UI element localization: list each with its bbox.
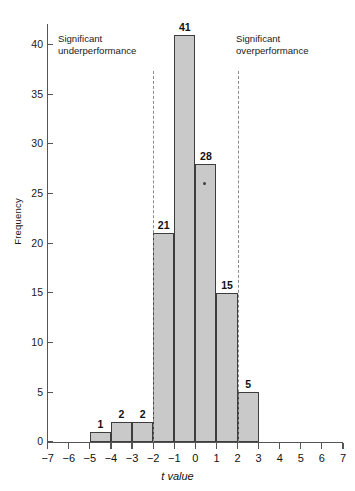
y-tick-label: 20 bbox=[3, 238, 43, 249]
y-tick-label: 0 bbox=[3, 436, 43, 447]
y-tick-label-wrap: 30 bbox=[0, 138, 43, 149]
x-tick bbox=[68, 443, 69, 449]
y-tick bbox=[47, 94, 53, 95]
histogram-bar bbox=[195, 164, 216, 442]
y-tick-label-wrap: 35 bbox=[0, 89, 43, 100]
y-axis-line bbox=[47, 24, 48, 443]
y-tick-label-wrap: 5 bbox=[0, 387, 43, 398]
y-tick-label: 5 bbox=[3, 387, 43, 398]
x-tick bbox=[279, 443, 280, 449]
x-tick bbox=[300, 443, 301, 449]
y-tick bbox=[47, 292, 53, 293]
x-tick bbox=[342, 443, 343, 449]
y-tick-label: 30 bbox=[3, 138, 43, 149]
significance-threshold-negative bbox=[153, 71, 154, 442]
histogram-bar bbox=[153, 233, 174, 442]
x-tick bbox=[89, 443, 90, 449]
y-tick-label: 40 bbox=[3, 39, 43, 50]
x-tick bbox=[153, 443, 154, 449]
y-tick-label: 15 bbox=[3, 287, 43, 298]
note-under-line1: Significant bbox=[58, 33, 102, 44]
y-axis-title: Frequency bbox=[12, 162, 23, 282]
y-tick-label-wrap: 0 bbox=[0, 436, 43, 447]
significance-threshold-positive bbox=[238, 71, 239, 442]
bar-value-label: 28 bbox=[186, 151, 226, 162]
x-tick bbox=[174, 443, 175, 449]
y-tick-label-wrap: 40 bbox=[0, 39, 43, 50]
histogram-bar bbox=[132, 422, 153, 442]
x-axis-title: t value bbox=[0, 470, 355, 482]
y-tick bbox=[47, 392, 53, 393]
y-tick-label-wrap: 10 bbox=[0, 337, 43, 348]
significant-underperformance-note: Significant underperformance bbox=[58, 33, 136, 57]
significant-overperformance-note: Significant overperformance bbox=[236, 33, 309, 57]
y-tick-label: 10 bbox=[3, 337, 43, 348]
note-under-line2: underperformance bbox=[58, 45, 136, 56]
histogram-figure: 0510152025303540 −7−6−5−4−3−2−101234567 … bbox=[0, 0, 355, 491]
y-tick bbox=[47, 243, 53, 244]
histogram-bar bbox=[238, 392, 259, 442]
y-tick bbox=[47, 44, 53, 45]
bar-value-label: 41 bbox=[165, 22, 205, 33]
y-tick bbox=[47, 143, 53, 144]
x-tick bbox=[131, 443, 132, 449]
x-tick bbox=[321, 443, 322, 449]
x-tick bbox=[110, 443, 111, 449]
x-axis-title-text: t value bbox=[161, 470, 193, 482]
y-tick bbox=[47, 193, 53, 194]
bar-value-label: 5 bbox=[228, 379, 268, 390]
note-over-line2: overperformance bbox=[236, 45, 309, 56]
histogram-bar bbox=[174, 35, 195, 442]
x-tick bbox=[216, 443, 217, 449]
x-tick bbox=[258, 443, 259, 449]
bar-value-label: 15 bbox=[207, 280, 247, 291]
x-tick bbox=[237, 443, 238, 449]
y-tick-label: 25 bbox=[3, 188, 43, 199]
note-over-line1: Significant bbox=[236, 33, 280, 44]
histogram-bar bbox=[111, 422, 132, 442]
x-tick bbox=[195, 443, 196, 449]
y-tick bbox=[47, 342, 53, 343]
histogram-bar bbox=[216, 293, 237, 442]
y-tick-label-wrap: 15 bbox=[0, 287, 43, 298]
y-tick-label: 35 bbox=[3, 89, 43, 100]
x-tick-label: 7 bbox=[331, 452, 355, 464]
histogram-bar bbox=[90, 432, 111, 442]
x-tick bbox=[47, 443, 48, 449]
